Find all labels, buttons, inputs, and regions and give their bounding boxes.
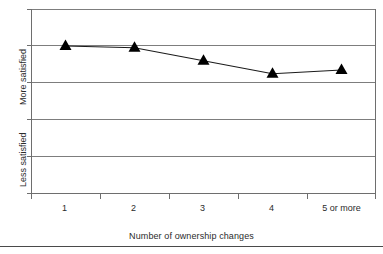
x-axis-title: Number of ownership changes (0, 231, 383, 241)
chart-figure: More satisfied Less satisfied 1 2 3 4 5 … (0, 0, 383, 254)
y-axis-label-less-satisfied: Less satisfied (18, 132, 28, 187)
x-tick-label-5-or-more: 5 or more (307, 203, 376, 213)
x-tick-label-4: 4 (251, 203, 292, 213)
line-chart-canvas (0, 0, 383, 254)
plot-area-background (31, 9, 376, 194)
x-tick-label-1: 1 (44, 203, 85, 213)
figure-bottom-rule (0, 246, 383, 247)
y-axis-label-more-satisfied: More satisfied (18, 49, 28, 105)
x-axis-ticks (32, 194, 376, 199)
x-tick-label-2: 2 (113, 203, 154, 213)
x-tick-label-3: 3 (182, 203, 223, 213)
